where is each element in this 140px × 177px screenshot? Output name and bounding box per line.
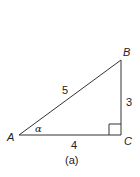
- side-label-bc: 3: [126, 96, 132, 108]
- right-angle-marker: [109, 124, 121, 135]
- vertex-label-b: B: [123, 46, 130, 58]
- vertex-label-c: C: [124, 135, 132, 147]
- angle-label-alpha: α: [35, 123, 42, 134]
- figure-caption: (a): [65, 154, 78, 166]
- triangle-diagram: B A C 5 3 4 α (a): [0, 0, 140, 177]
- vertex-label-a: A: [6, 131, 14, 143]
- side-label-ac: 4: [71, 139, 77, 151]
- side-label-ab: 5: [62, 84, 68, 96]
